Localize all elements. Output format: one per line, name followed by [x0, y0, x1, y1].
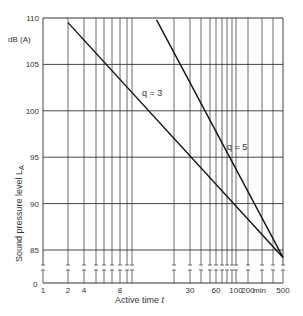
x-tick-label: 2 — [66, 286, 71, 295]
x-tick-label: 500 — [276, 286, 290, 295]
series-label-q5: q = 5 — [227, 142, 247, 152]
y-tick-label: 105 — [26, 60, 40, 69]
gridlines — [41, 18, 285, 283]
series-line — [157, 20, 283, 258]
x-tick-label: 1 — [41, 286, 46, 295]
x-tick-label: 8 — [118, 286, 123, 295]
y-tick-label: 95 — [30, 153, 39, 162]
series-lines — [68, 20, 283, 258]
y-tick-label: 110 — [26, 14, 39, 23]
y-unit-label: dB (A) — [8, 35, 31, 44]
y-tick-label: 85 — [30, 246, 39, 255]
y-tick-label: 90 — [30, 200, 39, 209]
x-axis-label: Active time t — [115, 295, 165, 305]
x-tick-label: 30 — [186, 286, 195, 295]
x-unit-label: min — [253, 286, 266, 295]
chart: 85909510010511012483060100200500 dB (A) … — [0, 0, 303, 316]
x-tick-label: 60 — [212, 286, 221, 295]
y-axis-label: Sound pressure level LA — [14, 165, 25, 262]
y-break-zero-label: 0 — [33, 280, 38, 289]
y-tick-label: 100 — [26, 107, 40, 116]
x-tick-label: 4 — [82, 286, 87, 295]
series-line — [68, 23, 283, 258]
tick-labels: 85909510010511012483060100200500 — [26, 14, 291, 295]
series-label-q3: q = 3 — [142, 88, 162, 98]
